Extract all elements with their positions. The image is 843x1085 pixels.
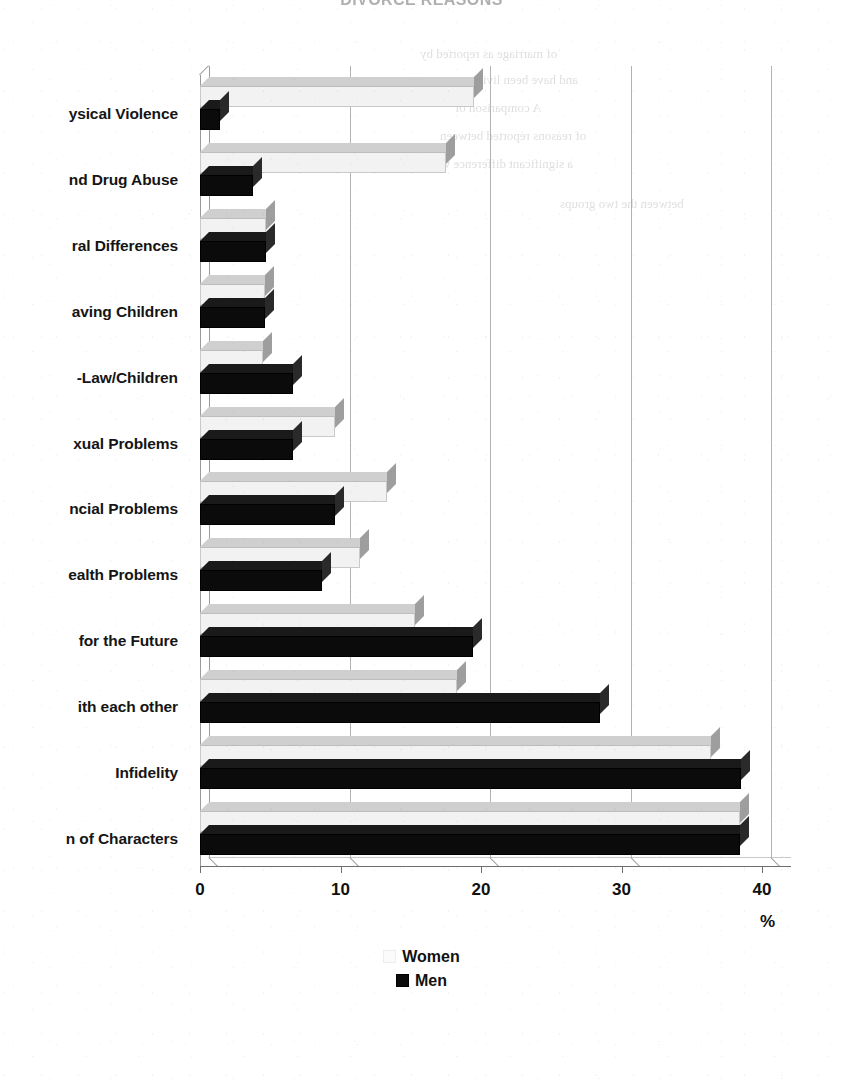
chart-legend: Women Men	[0, 948, 843, 990]
legend-label-men: Men	[415, 972, 447, 989]
legend-item-women[interactable]: Women	[0, 948, 843, 966]
x-axis-tick-label-10: 10	[331, 880, 350, 900]
legend-swatch-women-icon	[383, 950, 396, 963]
value-axis-tick-labels: 010203040	[0, 0, 843, 1085]
legend-swatch-men-icon	[396, 974, 409, 987]
legend-item-men[interactable]: Men	[0, 972, 843, 990]
legend-label-women: Women	[402, 948, 459, 965]
bar-chart: ysical Violencend Drug Abuseral Differen…	[0, 0, 843, 1085]
x-axis-tick-label-0: 0	[195, 880, 204, 900]
x-axis-tick-label-20: 20	[472, 880, 491, 900]
axis-unit-label: %	[760, 912, 775, 932]
x-axis-tick-label-40: 40	[753, 880, 772, 900]
x-axis-tick-label-30: 30	[612, 880, 631, 900]
